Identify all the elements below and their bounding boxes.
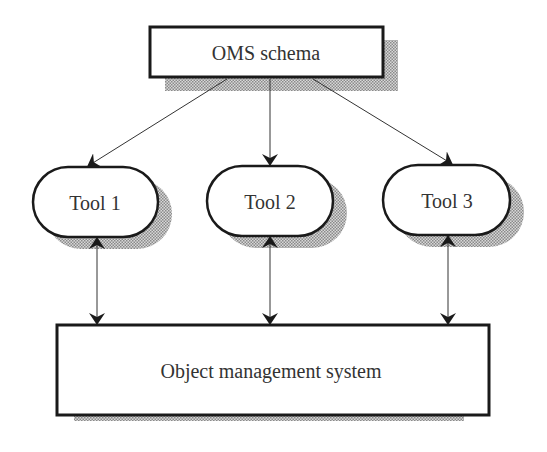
tool-2-label: Tool 2: [244, 191, 295, 213]
arrow-schema-to-tool-3: [313, 79, 452, 164]
oms-schema-node: OMS schema: [150, 27, 398, 91]
oms-schema-label: OMS schema: [212, 42, 320, 64]
tool-3-label: Tool 3: [421, 190, 472, 212]
oms-node: Object management system: [57, 325, 489, 421]
tool-2-node: Tool 2: [207, 166, 347, 248]
diagram-canvas: OMS schema Tool 1 Tool 2 Tool 3 Object m…: [0, 0, 547, 452]
tool-1-label: Tool 1: [69, 192, 120, 214]
oms-label: Object management system: [160, 360, 381, 383]
arrow-schema-to-tool-1: [88, 79, 227, 166]
tool-1-node: Tool 1: [33, 167, 172, 249]
tool-3-node: Tool 3: [383, 165, 524, 247]
